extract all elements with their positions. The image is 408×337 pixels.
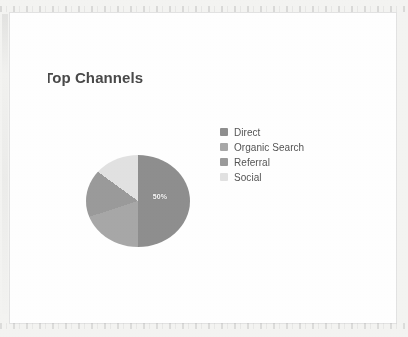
photo-left-edge-artifact bbox=[2, 14, 8, 314]
legend-swatch-icon bbox=[220, 143, 228, 151]
legend-item-social[interactable]: Social bbox=[220, 170, 370, 184]
legend-item-organic-search[interactable]: Organic Search bbox=[220, 140, 370, 154]
legend-item-label: Organic Search bbox=[234, 142, 304, 153]
pie-slice-label-direct: 50% bbox=[143, 193, 177, 200]
legend-item-referral[interactable]: Referral bbox=[220, 155, 370, 169]
legend-swatch-icon bbox=[220, 158, 228, 166]
page-title: Top Channels bbox=[44, 69, 143, 86]
photo-top-edge-artifact bbox=[0, 6, 408, 12]
chart-legend: Direct Organic Search Referral Social bbox=[220, 125, 370, 185]
pie-chart: 50% Direct Organic Search Referral bbox=[34, 113, 374, 263]
legend-item-direct[interactable]: Direct bbox=[220, 125, 370, 139]
legend-item-label: Direct bbox=[234, 127, 260, 138]
legend-item-label: Referral bbox=[234, 157, 270, 168]
photo-bottom-edge-artifact bbox=[0, 323, 408, 329]
legend-swatch-icon bbox=[220, 173, 228, 181]
pie-slices bbox=[86, 155, 190, 247]
legend-swatch-icon bbox=[220, 128, 228, 136]
pie-graphic: 50% bbox=[86, 155, 190, 247]
screenshot-canvas: Top Channels 50% Direct Organic Search R… bbox=[0, 0, 408, 337]
legend-item-label: Social bbox=[234, 172, 262, 183]
top-channels-card: Top Channels 50% Direct Organic Search R… bbox=[9, 12, 397, 324]
